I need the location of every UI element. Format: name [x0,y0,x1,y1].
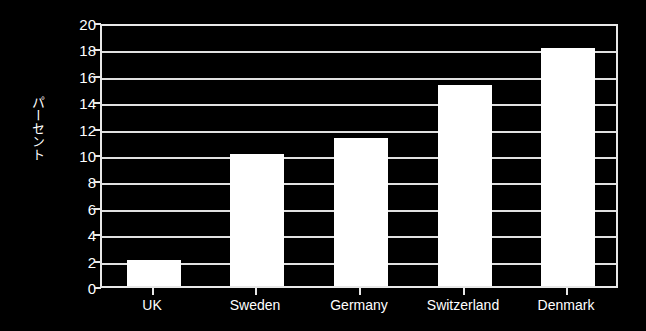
gridline [102,51,616,53]
y-axis-tick-label: 4 [50,227,96,244]
y-axis-tick-label: 8 [50,174,96,191]
x-axis-tick-mark [463,288,465,295]
y-axis-tick-mark [94,76,101,78]
gridline [102,104,616,106]
bar-switzerland [438,85,492,286]
x-axis-label-denmark: Denmark [538,297,595,313]
y-axis-tick-mark [94,23,101,25]
x-axis-tick-mark [152,288,154,295]
y-axis-tick-label: 12 [50,121,96,138]
y-axis-tick-mark [94,234,101,236]
y-axis-tick-mark [94,49,101,51]
bar-uk [127,260,181,286]
y-axis-tick-mark [94,208,101,210]
y-axis-tick-label: 14 [50,95,96,112]
bar-germany [334,138,388,286]
y-axis-tick-label: 6 [50,200,96,217]
bar-denmark [541,48,595,286]
x-axis-label-uk: UK [142,297,161,313]
x-axis-label-germany: Germany [330,297,388,313]
y-axis-tick-mark [94,181,101,183]
x-axis-tick-mark [255,288,257,295]
x-axis-label-sweden: Sweden [230,297,281,313]
y-axis-tick-label: 16 [50,68,96,85]
y-axis-tick-label: 10 [50,148,96,165]
x-axis-tick-mark [359,288,361,295]
plot-area [100,24,618,288]
y-axis-tick-mark [94,261,101,263]
x-axis-label-switzerland: Switzerland [427,297,499,313]
gridline [102,78,616,80]
x-axis-tick-mark [566,288,568,295]
y-axis-tick-label: 18 [50,42,96,59]
y-axis-tick-labels: 02468101214161820 [48,24,96,288]
y-axis-tick-label: 20 [50,16,96,33]
y-axis-tick-mark [94,155,101,157]
y-axis-tick-label: 2 [50,253,96,270]
gridline [102,131,616,133]
y-axis-tick-mark [94,287,101,289]
bar-chart: パーセント 02468101214161820 UKSwedenGermanyS… [0,0,646,331]
y-axis-title: パーセント [22,96,44,206]
bar-sweden [230,154,284,286]
y-axis-tick-label: 0 [50,280,96,297]
y-axis-tick-mark [94,129,101,131]
y-axis-tick-mark [94,102,101,104]
